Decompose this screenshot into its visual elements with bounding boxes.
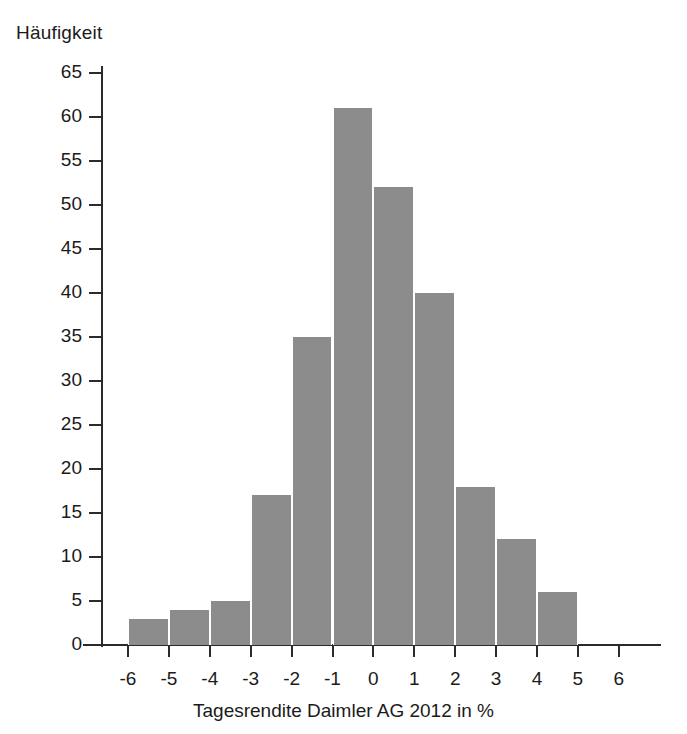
histogram-bar	[537, 592, 578, 645]
x-tick-mark	[127, 645, 129, 657]
x-tick-label: -5	[149, 668, 189, 690]
x-tick-mark	[495, 645, 497, 657]
y-tick-label: 0	[36, 633, 82, 655]
x-tick-mark	[372, 645, 374, 657]
x-tick-label: -2	[272, 668, 312, 690]
y-tick-mark	[89, 424, 101, 426]
y-tick-mark	[89, 556, 101, 558]
y-tick-label: 50	[36, 193, 82, 215]
x-tick-label: -6	[108, 668, 148, 690]
y-tick-label: 25	[36, 413, 82, 435]
y-tick-label: 45	[36, 237, 82, 259]
y-tick-label: 60	[36, 105, 82, 127]
x-tick-label: -1	[313, 668, 353, 690]
x-tick-label: 5	[558, 668, 598, 690]
y-tick-label: 15	[36, 501, 82, 523]
x-tick-mark	[454, 645, 456, 657]
histogram-bar	[496, 539, 537, 645]
y-tick-mark	[89, 204, 101, 206]
x-tick-label: 3	[476, 668, 516, 690]
y-tick-label: 35	[36, 325, 82, 347]
y-tick-mark	[89, 512, 101, 514]
histogram-bar	[169, 610, 210, 645]
y-tick-mark	[89, 248, 101, 250]
histogram-bar	[210, 601, 251, 645]
y-tick-mark	[89, 160, 101, 162]
x-axis-title: Tagesrendite Daimler AG 2012 in %	[0, 700, 687, 722]
bars-group	[101, 73, 660, 645]
x-tick-mark	[250, 645, 252, 657]
y-tick-label: 20	[36, 457, 82, 479]
x-tick-mark	[291, 645, 293, 657]
x-tick-label: 1	[394, 668, 434, 690]
histogram-bar	[455, 487, 496, 645]
x-tick-mark	[168, 645, 170, 657]
x-tick-mark	[618, 645, 620, 657]
x-tick-mark	[413, 645, 415, 657]
y-tick-mark	[89, 116, 101, 118]
y-tick-label: 5	[36, 589, 82, 611]
histogram-figure: Häufigkeit 05101520253035404550556065 -6…	[0, 0, 687, 734]
x-tick-mark	[332, 645, 334, 657]
x-tick-mark	[209, 645, 211, 657]
histogram-bar	[292, 337, 333, 645]
y-tick-mark	[89, 336, 101, 338]
y-tick-label: 10	[36, 545, 82, 567]
y-tick-mark	[89, 292, 101, 294]
y-tick-label: 30	[36, 369, 82, 391]
histogram-bar	[414, 293, 455, 645]
y-tick-mark	[89, 72, 101, 74]
x-tick-label: -4	[190, 668, 230, 690]
y-tick-label: 65	[36, 61, 82, 83]
y-tick-mark	[89, 468, 101, 470]
y-tick-mark	[89, 380, 101, 382]
plot-area	[101, 73, 660, 645]
x-tick-label: 6	[599, 668, 639, 690]
histogram-bar	[128, 619, 169, 645]
x-tick-label: 2	[435, 668, 475, 690]
y-tick-label: 55	[36, 149, 82, 171]
y-axis-title: Häufigkeit	[16, 22, 103, 44]
y-tick-mark	[89, 644, 101, 646]
y-tick-label: 40	[36, 281, 82, 303]
x-tick-label: 4	[517, 668, 557, 690]
x-tick-label: 0	[353, 668, 393, 690]
y-tick-mark	[89, 600, 101, 602]
x-tick-label: -3	[231, 668, 271, 690]
histogram-bar	[251, 495, 292, 645]
histogram-bar	[373, 187, 414, 645]
histogram-bar	[333, 108, 374, 645]
x-tick-mark	[577, 645, 579, 657]
x-tick-mark	[536, 645, 538, 657]
